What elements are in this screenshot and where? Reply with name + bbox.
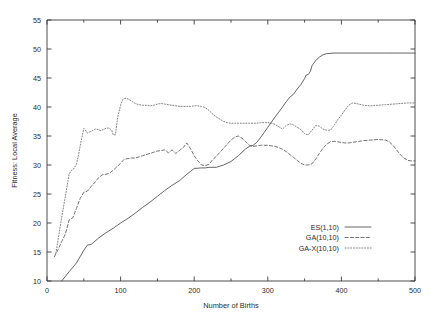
legend-label-2: GA-X(10,10): [299, 244, 339, 253]
chart-legend: ES(1,10)GA(10,10)GA-X(10,10): [299, 223, 371, 253]
y-tick-label: 30: [33, 161, 41, 170]
x-axis-label: Number of Births: [203, 301, 259, 310]
y-tick-label: 50: [33, 45, 41, 54]
y-axis-label: Fitness: Local Average: [10, 113, 19, 188]
y-tick-label: 10: [33, 277, 41, 286]
plot-frame: [47, 20, 415, 281]
x-tick-label: 500: [409, 286, 421, 295]
line-chart: 10152025303540455055 0100200300400500 Fi…: [0, 0, 436, 323]
y-axis-ticks: 10152025303540455055: [33, 16, 415, 286]
x-tick-label: 400: [335, 286, 347, 295]
series-line-ga-x1010: [56, 98, 415, 253]
y-tick-label: 55: [33, 16, 41, 25]
y-tick-label: 45: [33, 74, 41, 83]
y-tick-label: 25: [33, 190, 41, 199]
y-tick-label: 20: [33, 219, 41, 228]
series-line-ga1010: [54, 136, 415, 257]
x-tick-label: 0: [45, 286, 49, 295]
chart-figure: 10152025303540455055 0100200300400500 Fi…: [0, 0, 436, 323]
legend-label-0: ES(1,10): [311, 223, 339, 232]
y-tick-label: 35: [33, 132, 41, 141]
x-tick-label: 200: [188, 286, 200, 295]
x-tick-label: 100: [115, 286, 127, 295]
series-lines: [54, 53, 415, 281]
x-axis-ticks: 0100200300400500: [45, 20, 421, 295]
y-tick-label: 40: [33, 103, 41, 112]
legend-label-1: GA(10,10): [306, 233, 339, 242]
y-tick-label: 15: [33, 248, 41, 257]
series-line-es110: [62, 53, 415, 281]
x-tick-label: 300: [262, 286, 274, 295]
